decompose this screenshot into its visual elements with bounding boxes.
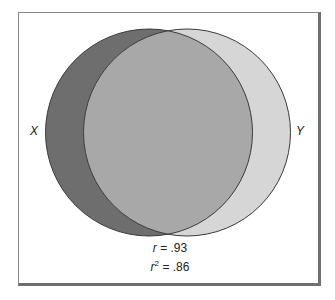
set-y-label: Y [296,124,304,138]
correlation-stats: r = .93 r2 = .86 [120,241,220,275]
r-squared-value: r2 = .86 [120,256,220,275]
r-value: r = .93 [120,241,220,256]
set-x-label: X [30,124,38,138]
